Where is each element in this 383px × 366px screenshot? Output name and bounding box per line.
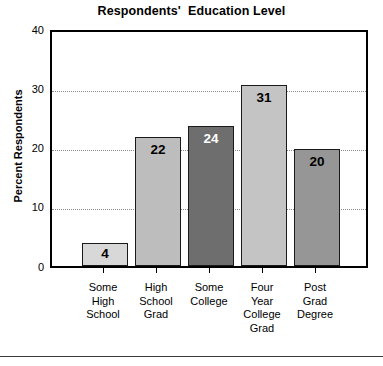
bar-value-label: 24: [203, 132, 218, 146]
bar-value-label: 20: [309, 155, 324, 169]
bar-some-college: 24: [188, 126, 234, 266]
y-tick-label-10: 10: [4, 202, 44, 213]
x-tick-3: [262, 268, 263, 273]
footer-divider: [0, 356, 383, 357]
bar-some-high-school: 4: [82, 243, 128, 266]
x-tick-1: [156, 268, 157, 273]
bar-chart-figure: Respondents' Education Level Percent Res…: [0, 0, 383, 366]
plot-area: 4 22 24 31 20: [50, 30, 368, 268]
bar-post-grad-degree: 20: [294, 149, 340, 266]
x-tick-0: [103, 268, 104, 273]
clipped-caption: [8, 358, 383, 366]
y-tick-label-20: 20: [4, 143, 44, 154]
x-tick-2: [209, 268, 210, 273]
bar-value-label: 22: [150, 143, 165, 157]
x-label-post-grad-degree: Post Grad Degree: [268, 281, 362, 322]
y-tick-label-40: 40: [4, 25, 44, 36]
bar-four-year-college-grad: 31: [241, 85, 287, 266]
bar-value-label: 31: [256, 91, 271, 105]
chart-title: Respondents' Education Level: [0, 4, 383, 18]
bar-high-school-grad: 22: [135, 137, 181, 266]
y-tick-label-30: 30: [4, 84, 44, 95]
y-tick-label-0: 0: [4, 262, 44, 273]
bar-value-label: 4: [101, 247, 109, 261]
gridline-30: [52, 91, 366, 92]
x-tick-4: [315, 268, 316, 273]
